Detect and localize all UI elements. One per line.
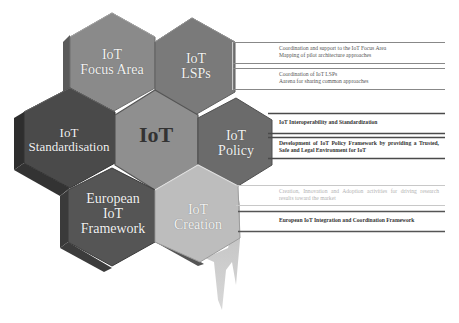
hex-label-line: Focus Area bbox=[80, 62, 143, 77]
iot-hexagon-diagram: IoT Focus Area IoT LSPs IoT Standardisat… bbox=[0, 0, 459, 323]
desc-line: Coordination of IoT LSPs bbox=[279, 71, 445, 78]
hex-label-standardisation: IoT Standardisation bbox=[29, 126, 110, 154]
hex-label-line: LSPs bbox=[181, 66, 211, 81]
focus-area-side bbox=[63, 35, 70, 95]
desc-line: Mapping of pilot architecture approaches bbox=[279, 52, 445, 59]
hex-label-line: IoT bbox=[81, 206, 146, 221]
desc-creation-innovation: Creation, Innovation and Adoption activi… bbox=[275, 188, 445, 203]
hex-label-line: IoT bbox=[139, 123, 173, 147]
hex-label-line: IoT bbox=[29, 126, 110, 140]
hex-label-line: IoT bbox=[174, 202, 222, 217]
desc-interoperability: IoT Interoperability and Standardization bbox=[275, 119, 445, 126]
hex-label-line: IoT bbox=[181, 51, 211, 66]
desc-line: Aarena for sharing common approaches bbox=[279, 78, 445, 85]
hex-label-policy: IoT Policy bbox=[218, 128, 254, 158]
desc-european-integration: European IoT Integration and Coordinatio… bbox=[275, 217, 445, 224]
hex-label-european: European IoT Framework bbox=[81, 191, 146, 236]
desc-lsps-coordination: Coordination of IoT LSPs Aarena for shar… bbox=[275, 71, 445, 86]
european-side bbox=[60, 190, 68, 248]
hex-label-line: IoT bbox=[80, 47, 143, 62]
desc-line: Coordination and support to the IoT Focu… bbox=[279, 45, 445, 52]
hex-label-creation: IoT Creation bbox=[174, 202, 222, 232]
desc-focus-area-coordination: Coordination and support to the IoT Focu… bbox=[275, 45, 445, 60]
hex-label-line: Framework bbox=[81, 222, 146, 237]
standardisation-side bbox=[14, 112, 24, 170]
hex-label-line: Standardisation bbox=[29, 140, 110, 154]
hex-label-center: IoT bbox=[139, 123, 173, 147]
hex-label-line: Policy bbox=[218, 143, 254, 158]
desc-policy-framework: Development of IoT Policy Framework by p… bbox=[275, 140, 445, 155]
hex-label-lsps: IoT LSPs bbox=[181, 51, 211, 81]
hex-label-line: European bbox=[81, 191, 146, 206]
hex-label-focus-area: IoT Focus Area bbox=[80, 47, 143, 77]
hex-label-line: Creation bbox=[174, 217, 222, 232]
hex-label-line: IoT bbox=[218, 128, 254, 143]
